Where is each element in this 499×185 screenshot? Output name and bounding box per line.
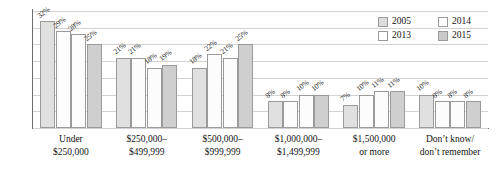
bar	[359, 95, 374, 128]
bar-value-label: 8%	[446, 88, 458, 100]
grouped-bar-chart: 32%29%28%25%21%21%18%19%18%22%21%25%8%8%…	[0, 0, 499, 185]
category-label-line: Don’t know/	[404, 133, 496, 146]
bar-value-label: 28%	[67, 19, 82, 33]
bar-value-label: 11%	[386, 76, 401, 90]
bar-group: 21%21%18%19%	[109, 11, 185, 128]
bar	[450, 101, 465, 128]
bar-value-label: 10%	[295, 79, 310, 93]
legend-item-2015[interactable]: 2015	[438, 30, 471, 41]
legend-label: 2013	[392, 30, 411, 41]
bar	[223, 58, 238, 128]
bar	[435, 101, 450, 128]
bar	[147, 68, 162, 128]
bar	[87, 44, 102, 128]
bar	[283, 101, 298, 128]
bar	[40, 21, 55, 128]
bar-value-label: 22%	[203, 39, 218, 53]
category-label-line: don’t remember	[404, 146, 496, 159]
legend-swatch-icon	[438, 17, 448, 27]
bar-group: 32%29%28%25%	[33, 11, 109, 128]
legend-label: 2015	[452, 30, 471, 41]
bar	[419, 95, 434, 128]
gridline	[33, 128, 488, 129]
bar	[343, 105, 358, 128]
bar-group: 18%22%21%25%	[185, 11, 261, 128]
bar	[299, 95, 314, 128]
legend-item-2014[interactable]: 2014	[438, 16, 471, 27]
chart-legend: 2005201320142015	[378, 16, 486, 44]
legend-label: 2014	[452, 16, 471, 27]
bar-value-label: 11%	[371, 76, 386, 90]
bar-value-label: 10%	[355, 79, 370, 93]
bar	[116, 58, 131, 128]
bar-value-label: 8%	[279, 88, 291, 100]
bar-value-label: 25%	[234, 29, 249, 43]
bar	[466, 101, 481, 128]
bar	[390, 91, 405, 128]
bar	[268, 101, 283, 128]
legend-item-2013[interactable]: 2013	[378, 30, 411, 41]
bar	[71, 34, 86, 128]
legend-item-2005[interactable]: 2005	[378, 16, 411, 27]
bar-value-label: 8%	[462, 88, 474, 100]
bar-value-label: 32%	[36, 5, 51, 19]
legend-swatch-icon	[378, 17, 388, 27]
bar	[192, 68, 207, 128]
bar	[56, 31, 71, 128]
bar-value-label: 29%	[52, 15, 67, 29]
bar-value-label: 21%	[112, 42, 127, 56]
bar-value-label: 10%	[310, 79, 325, 93]
bar-value-label: 21%	[128, 42, 143, 56]
bar	[131, 58, 146, 128]
bar-value-label: 19%	[159, 49, 174, 63]
bar-value-label: 18%	[188, 52, 203, 66]
bar	[314, 95, 329, 128]
bar	[207, 54, 222, 128]
bar-group: 8%8%10%10%	[261, 11, 337, 128]
bar	[238, 44, 253, 128]
legend-swatch-icon	[378, 31, 388, 41]
bar-value-label: 10%	[415, 79, 430, 93]
legend-label: 2005	[392, 16, 411, 27]
bar	[374, 91, 389, 128]
bar-value-label: 7%	[340, 91, 352, 103]
bar	[162, 65, 177, 129]
category-label: Don’t know/don’t remember	[404, 133, 496, 158]
bar-value-label: 8%	[264, 88, 276, 100]
legend-swatch-icon	[438, 31, 448, 41]
